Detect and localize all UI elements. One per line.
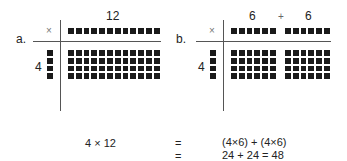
unit-square [316, 73, 322, 79]
unit-square [138, 50, 144, 56]
panel-a-left-value: 4 [35, 61, 42, 73]
panel-a-horizontal-axis [33, 41, 161, 42]
unit-square [68, 66, 74, 72]
unit-square [301, 50, 307, 56]
unit-square [210, 50, 216, 56]
unit-square [239, 73, 245, 79]
unit-square [115, 58, 121, 64]
unit-square [154, 58, 160, 64]
unit-square [146, 50, 152, 56]
unit-square [301, 28, 307, 34]
unit-square [270, 58, 276, 64]
equation-rhs-2: 24 + 24 = 48 [222, 150, 284, 161]
panel-b-times-symbol: × [209, 25, 215, 36]
unit-square [210, 66, 216, 72]
unit-square [247, 66, 253, 72]
unit-square [146, 28, 152, 34]
unit-square [47, 50, 53, 56]
unit-square [231, 50, 237, 56]
unit-square [308, 50, 314, 56]
unit-square [99, 66, 105, 72]
unit-square [324, 28, 330, 34]
unit-square [123, 73, 129, 79]
unit-square [239, 28, 245, 34]
unit-square [123, 66, 129, 72]
unit-square [115, 50, 121, 56]
unit-square [99, 50, 105, 56]
unit-square [210, 58, 216, 64]
unit-square [270, 73, 276, 79]
unit-square [130, 73, 136, 79]
panel-a-product-grid [68, 50, 160, 79]
unit-square [115, 66, 121, 72]
panel-b-product-grid-2 [285, 50, 330, 79]
unit-square [99, 28, 105, 34]
unit-square [239, 58, 245, 64]
panel-a-top-squares [68, 28, 160, 34]
unit-square [107, 73, 113, 79]
panel-a-vertical-axis [60, 20, 61, 111]
unit-square [324, 73, 330, 79]
unit-square [130, 66, 136, 72]
unit-square [262, 73, 268, 79]
unit-square [285, 58, 291, 64]
unit-square [293, 28, 299, 34]
unit-square [68, 28, 74, 34]
unit-square [254, 66, 260, 72]
unit-square [293, 73, 299, 79]
unit-square [84, 50, 90, 56]
panel-b-top-value-2: 6 [305, 10, 312, 22]
unit-square [123, 28, 129, 34]
unit-square [138, 28, 144, 34]
panel-a-left-squares [47, 50, 53, 79]
unit-square [293, 58, 299, 64]
panel-b-top-plus: + [278, 11, 284, 22]
panel-a-times-symbol: × [46, 25, 52, 36]
unit-square [68, 73, 74, 79]
equation-equals-2: = [175, 151, 181, 161]
unit-square [84, 73, 90, 79]
unit-square [76, 50, 82, 56]
unit-square [76, 58, 82, 64]
panel-b-horizontal-axis [196, 41, 331, 42]
unit-square [262, 66, 268, 72]
unit-square [115, 28, 121, 34]
unit-square [239, 66, 245, 72]
unit-square [270, 66, 276, 72]
unit-square [231, 66, 237, 72]
unit-square [293, 66, 299, 72]
unit-square [76, 66, 82, 72]
unit-square [146, 66, 152, 72]
unit-square [324, 50, 330, 56]
unit-square [301, 66, 307, 72]
unit-square [262, 50, 268, 56]
unit-square [270, 50, 276, 56]
panel-b-top-value-1: 6 [249, 10, 256, 22]
equation-equals-1: = [175, 138, 181, 149]
unit-square [316, 58, 322, 64]
panel-b-vertical-axis [223, 20, 224, 111]
panel-b-left-squares [210, 50, 216, 79]
unit-square [130, 28, 136, 34]
panel-a-label: a. [16, 33, 26, 45]
panel-b-left-value: 4 [198, 61, 205, 73]
unit-square [324, 58, 330, 64]
panel-b-label: b. [176, 33, 186, 45]
unit-square [254, 73, 260, 79]
unit-square [68, 58, 74, 64]
unit-square [107, 58, 113, 64]
unit-square [138, 73, 144, 79]
unit-square [154, 28, 160, 34]
unit-square [308, 73, 314, 79]
unit-square [293, 50, 299, 56]
unit-square [308, 58, 314, 64]
unit-square [301, 58, 307, 64]
unit-square [138, 58, 144, 64]
unit-square [254, 50, 260, 56]
unit-square [47, 58, 53, 64]
unit-square [308, 66, 314, 72]
unit-square [154, 50, 160, 56]
unit-square [84, 58, 90, 64]
panel-b-product-grid-1 [231, 50, 276, 79]
unit-square [91, 28, 97, 34]
